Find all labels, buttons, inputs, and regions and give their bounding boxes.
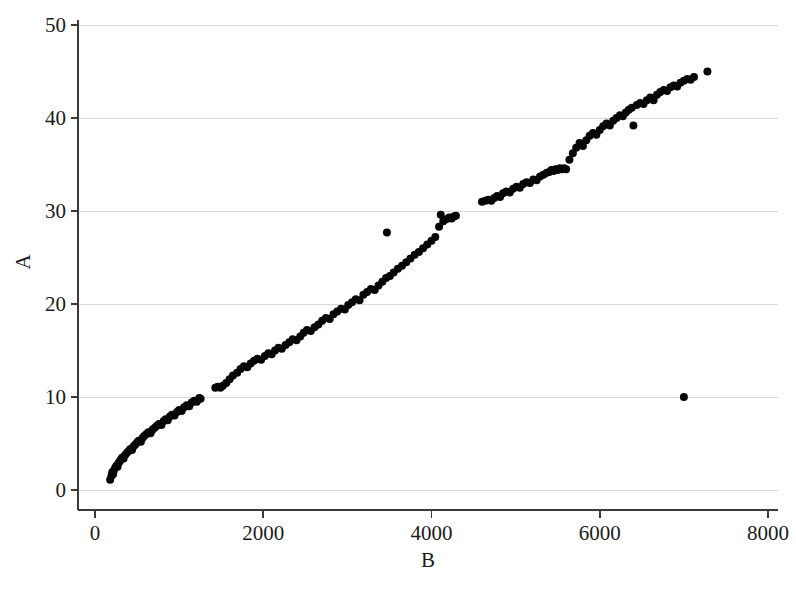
data-point (629, 121, 637, 129)
y-tick-label: 50 (45, 13, 66, 37)
data-point (452, 212, 460, 220)
y-tick-label: 0 (56, 478, 67, 502)
x-tick-label: 0 (90, 521, 101, 545)
chart-canvas: 02000400060008000 01020304050 B A (0, 0, 796, 589)
data-point (562, 165, 570, 173)
y-tick-group: 01020304050 (45, 13, 78, 502)
x-tick-label: 4000 (411, 521, 453, 545)
y-tick-label: 20 (45, 292, 66, 316)
y-tick-label: 40 (45, 106, 66, 130)
data-point (431, 233, 439, 241)
y-axis-title: A (11, 254, 35, 270)
y-tick-label: 30 (45, 199, 66, 223)
data-point (690, 73, 698, 81)
data-points-group (106, 68, 711, 484)
data-point (197, 395, 205, 403)
x-tick-label: 2000 (242, 521, 284, 545)
axis-spines-group (78, 20, 778, 510)
x-tick-label: 6000 (579, 521, 621, 545)
data-point (703, 68, 711, 76)
scatter-chart-figure: 02000400060008000 01020304050 B A (0, 0, 796, 589)
x-axis-title: B (421, 548, 435, 572)
y-tick-label: 10 (45, 385, 66, 409)
gridlines-group (79, 25, 778, 490)
x-tick-group: 02000400060008000 (90, 510, 789, 545)
data-point (680, 393, 688, 401)
data-point (383, 228, 391, 236)
x-tick-label: 8000 (747, 521, 789, 545)
